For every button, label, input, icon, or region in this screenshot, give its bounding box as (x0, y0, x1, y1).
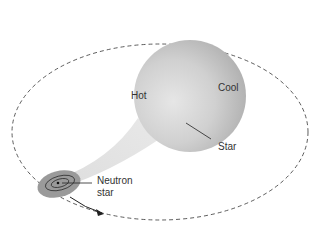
diagram-graphic (0, 0, 310, 228)
star (134, 40, 246, 152)
cool-label: Cool (218, 82, 239, 93)
star-label: Star (218, 141, 236, 152)
neutron-star-label-line2: star (97, 187, 114, 198)
neutron-star-label-line1: Neutron (97, 175, 133, 186)
neutron-star (57, 182, 60, 185)
accretion-disk (34, 166, 83, 203)
hot-label: Hot (131, 90, 147, 101)
arrow-head-icon (96, 209, 104, 216)
binary-star-diagram: Hot Cool Star Neutron star (0, 0, 310, 228)
